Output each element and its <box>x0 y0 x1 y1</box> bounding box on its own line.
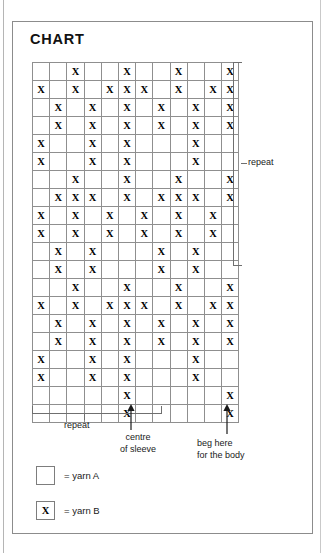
chart-cell <box>170 243 187 261</box>
chart-cell <box>204 189 221 207</box>
chart-row <box>33 243 239 261</box>
chart-cell <box>50 99 67 117</box>
chart-cell <box>67 189 84 207</box>
chart-cell <box>153 315 170 333</box>
chart-cell <box>136 387 153 405</box>
chart-cell <box>118 63 135 81</box>
chart-cell <box>118 351 135 369</box>
chart-row <box>33 63 239 81</box>
chart-cell <box>136 153 153 171</box>
chart-cell <box>118 189 135 207</box>
chart-row <box>33 99 239 117</box>
chart-cell <box>50 171 67 189</box>
beg-here-line-1: beg here <box>197 438 275 450</box>
legend-item-yarn-a: = yarn A <box>36 466 100 485</box>
chart-cell <box>101 189 118 207</box>
chart-cell <box>67 135 84 153</box>
chart-cell <box>67 225 84 243</box>
chart-row <box>33 333 239 351</box>
chart-row <box>33 225 239 243</box>
chart-cell <box>170 117 187 135</box>
chart-cell <box>187 279 204 297</box>
chart-cell <box>101 63 118 81</box>
chart-cell <box>101 261 118 279</box>
chart-cell <box>204 153 221 171</box>
chart-cell <box>153 153 170 171</box>
chart-cell <box>84 315 101 333</box>
chart-cell <box>33 243 50 261</box>
chart-cell <box>187 171 204 189</box>
chart-cell <box>187 243 204 261</box>
chart-cell <box>187 63 204 81</box>
chart-cell <box>153 279 170 297</box>
chart-cell <box>33 153 50 171</box>
chart-cell <box>84 153 101 171</box>
chart-cell <box>118 99 135 117</box>
chart-row <box>33 81 239 99</box>
chart-cell <box>33 63 50 81</box>
centre-of-sleeve-line-1: centre <box>107 432 169 444</box>
chart-cell <box>67 99 84 117</box>
chart-cell <box>187 135 204 153</box>
chart-cell <box>153 99 170 117</box>
chart-cell <box>33 333 50 351</box>
chart-row <box>33 315 239 333</box>
chart-cell <box>67 153 84 171</box>
chart-cell <box>50 387 67 405</box>
chart-cell <box>84 243 101 261</box>
centre-of-sleeve-line-2: of sleeve <box>107 444 169 456</box>
chart-cell <box>204 63 221 81</box>
chart-row <box>33 153 239 171</box>
chart-cell <box>50 117 67 135</box>
chart-cell <box>136 81 153 99</box>
chart-cell <box>118 297 135 315</box>
chart-cell <box>187 99 204 117</box>
chart-cell <box>170 261 187 279</box>
chart-cell <box>204 225 221 243</box>
chart-cell <box>136 333 153 351</box>
chart-cell <box>50 369 67 387</box>
chart-cell <box>170 225 187 243</box>
chart-cell <box>187 369 204 387</box>
chart-cell <box>84 351 101 369</box>
chart-cell <box>50 135 67 153</box>
chart-cell <box>170 99 187 117</box>
chart-cell <box>170 63 187 81</box>
chart-cell <box>187 297 204 315</box>
repeat-label-horizontal: repeat <box>64 420 90 430</box>
chart-cell <box>50 207 67 225</box>
chart-row <box>33 189 239 207</box>
chart-cell <box>204 351 221 369</box>
chart-cell <box>50 261 67 279</box>
chart-cell <box>153 387 170 405</box>
chart-grid <box>32 62 239 423</box>
chart-cell <box>101 369 118 387</box>
chart-cell <box>136 135 153 153</box>
chart-cell <box>84 81 101 99</box>
chart-cell <box>84 135 101 153</box>
chart-cell <box>101 333 118 351</box>
legend-swatch-yarn-b: X <box>36 501 55 520</box>
chart-cell <box>84 171 101 189</box>
centre-of-sleeve-label: centre of sleeve <box>107 432 169 455</box>
chart-cell <box>118 225 135 243</box>
chart-row <box>33 387 239 405</box>
chart-cell <box>67 81 84 99</box>
chart-cell <box>187 81 204 99</box>
chart-cell <box>153 171 170 189</box>
chart-cell <box>204 207 221 225</box>
chart-cell <box>33 369 50 387</box>
chart-cell <box>118 315 135 333</box>
chart-cell <box>101 351 118 369</box>
chart-cell <box>101 153 118 171</box>
chart-cell <box>222 297 239 315</box>
chart-cell <box>170 171 187 189</box>
chart-cell <box>101 81 118 99</box>
chart-cell <box>204 369 221 387</box>
chart-row <box>33 279 239 297</box>
chart-cell <box>136 261 153 279</box>
chart-cell <box>187 207 204 225</box>
repeat-bracket-vertical <box>233 62 242 266</box>
chart-cell <box>84 387 101 405</box>
chart-cell <box>50 243 67 261</box>
